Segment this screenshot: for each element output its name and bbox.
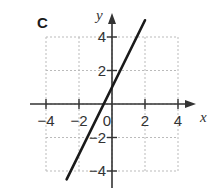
x-tick-label: −4: [37, 112, 54, 129]
x-tick-label: 0: [103, 112, 111, 129]
x-tick-label: −2: [70, 112, 87, 129]
y-axis-arrow-icon: [108, 13, 116, 24]
x-axis-arrow-icon: [185, 100, 196, 108]
y-axis-label: y: [94, 7, 103, 23]
x-tick-label: 4: [174, 112, 182, 129]
y-tick-label: 2: [98, 62, 106, 79]
y-tick-label: 4: [98, 28, 106, 45]
line-chart: −4−2024−4−224xy: [0, 0, 211, 193]
x-tick-label: 2: [141, 112, 149, 129]
y-tick-label: −4: [89, 162, 106, 179]
x-axis-label: x: [199, 109, 207, 125]
